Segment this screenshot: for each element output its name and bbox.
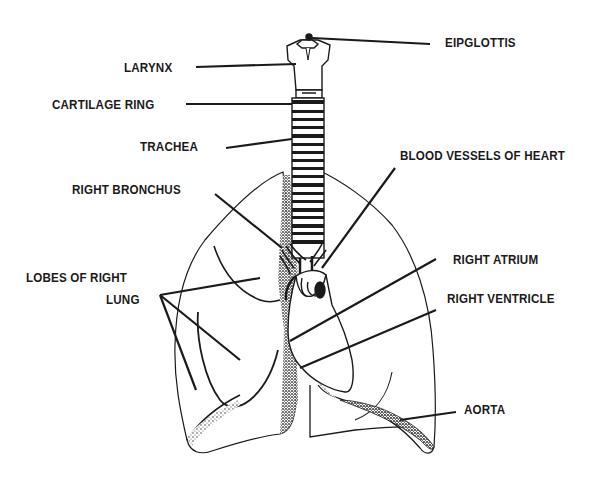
- label-lobes-of-right-lung-line2: LUNG: [106, 292, 140, 308]
- label-blood-vessels-of-heart: BLOOD VESSELS OF HEART: [400, 148, 565, 164]
- larynx: [287, 34, 330, 98]
- label-trachea: TRACHEA: [140, 139, 198, 155]
- label-larynx: LARYNX: [124, 60, 172, 76]
- leader-trachea: [226, 139, 292, 148]
- right-lung: [175, 172, 296, 453]
- respiratory-system-diagram: EIPGLOTTIS LARYNX CARTILAGE RING TRACHEA…: [0, 0, 616, 481]
- leader-aorta: [400, 412, 456, 420]
- label-right-atrium: RIGHT ATRIUM: [453, 252, 538, 268]
- label-lobes-of-right-lung-line1: LOBES OF RIGHT: [26, 270, 127, 286]
- label-aorta: AORTA: [464, 402, 505, 418]
- leader-larynx: [196, 64, 296, 67]
- label-cartilage-ring: CARTILAGE RING: [52, 97, 154, 113]
- leader-blood-vessels: [322, 168, 395, 268]
- leader-right-bronchus: [215, 194, 282, 248]
- label-right-ventricle: RIGHT VENTRICLE: [447, 291, 555, 307]
- trachea: [292, 98, 324, 258]
- label-right-bronchus: RIGHT BRONCHUS: [72, 182, 181, 198]
- label-epiglottis: EIPGLOTTIS: [445, 35, 516, 51]
- leader-epiglottis: [312, 38, 430, 44]
- anatomy-illustration: [0, 0, 616, 481]
